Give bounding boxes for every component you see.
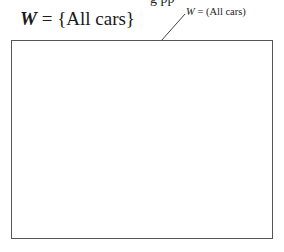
- universal-set-rectangle: [11, 40, 273, 239]
